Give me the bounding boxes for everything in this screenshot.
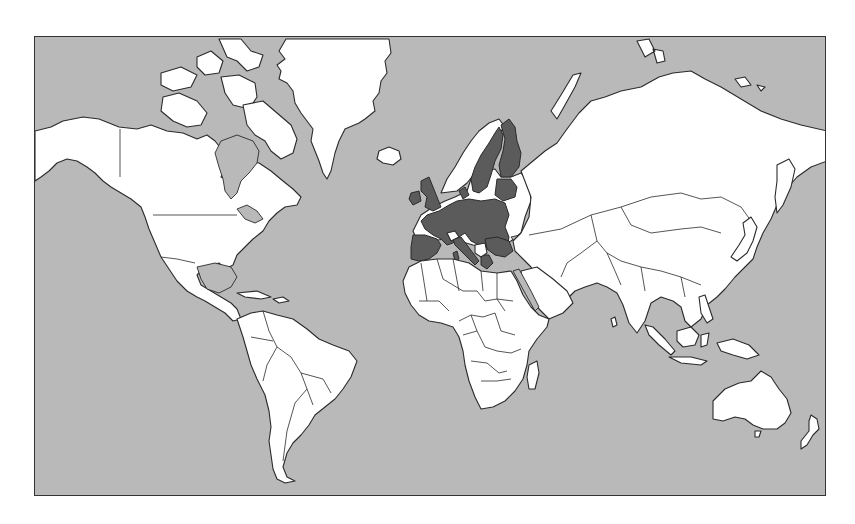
world-map-frame [34,36,826,496]
world-map [35,37,826,496]
baltic-states [495,179,517,201]
